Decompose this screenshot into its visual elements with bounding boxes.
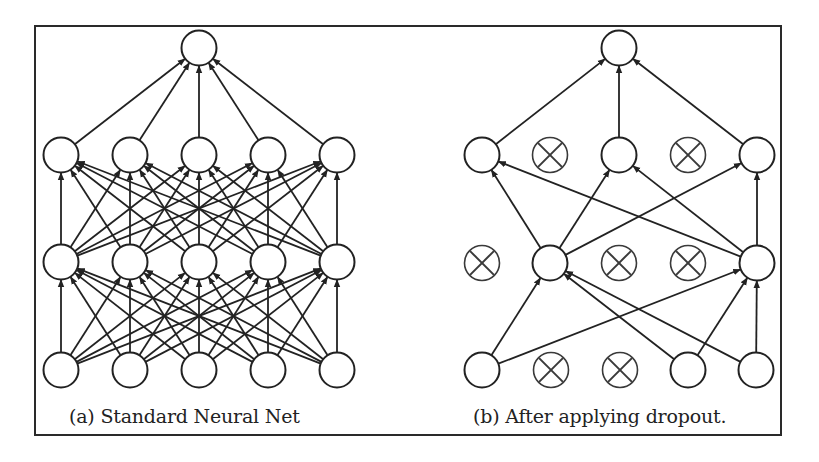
connection-arrow (491, 278, 540, 355)
caption-standard-neural-net: (a) Standard Neural Net (69, 405, 300, 427)
connection-arrow (499, 162, 741, 257)
neuron-hidden-2 (182, 245, 217, 280)
edges-standard-net (61, 59, 337, 364)
connection-arrow (566, 163, 742, 255)
neuron-hidden-1 (602, 138, 637, 173)
neuron-hidden-2 (113, 245, 148, 280)
neuron-input (320, 353, 355, 388)
connection-arrow (492, 170, 541, 248)
connection-arrow (496, 59, 605, 144)
caption-after-dropout: (b) After applying dropout. (473, 405, 726, 427)
neuron-hidden-2 (44, 245, 79, 280)
edges-dropout-net (491, 59, 757, 364)
neuron-hidden-1 (251, 138, 286, 173)
dropout-diagram (0, 0, 819, 462)
connection-arrow (564, 274, 674, 359)
neuron-hidden-1 (44, 138, 79, 173)
neuron-input (182, 353, 217, 388)
connection-arrow (213, 59, 323, 144)
neuron-input (739, 353, 774, 388)
neuron-input (44, 353, 79, 388)
connection-arrow (633, 59, 743, 144)
neuron-hidden-2 (320, 245, 355, 280)
connection-arrow (633, 166, 743, 252)
neuron-hidden-2 (740, 246, 775, 281)
connection-arrow (756, 281, 757, 353)
neuron-hidden-1 (113, 138, 148, 173)
neuron-input (465, 353, 500, 388)
neuron-input (113, 353, 148, 388)
connection-arrow (75, 59, 185, 144)
neuron-hidden-1 (740, 138, 775, 173)
neuron-hidden-2 (251, 245, 286, 280)
neuron-hidden-2 (533, 246, 568, 281)
neuron-output (602, 31, 637, 66)
neuron-input (251, 353, 286, 388)
panel-standard-neural-net (44, 31, 355, 388)
neuron-output (182, 31, 217, 66)
neuron-hidden-1 (465, 138, 500, 173)
neuron-input (671, 353, 706, 388)
connection-arrow (566, 271, 741, 362)
panel-after-dropout (465, 31, 775, 388)
neuron-hidden-1 (320, 138, 355, 173)
neuron-hidden-1 (182, 138, 217, 173)
